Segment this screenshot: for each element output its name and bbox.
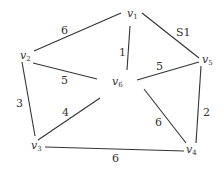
edge-v5-v4 <box>196 66 201 143</box>
vertex-v4: v4 <box>186 143 197 157</box>
weight-v2-v6: 5 <box>61 74 68 87</box>
weight-v2-v3: 3 <box>16 97 23 110</box>
weight-v1-v5: S1 <box>176 26 191 39</box>
edge-v1-v2 <box>34 13 121 51</box>
weight-v1-v6: 1 <box>119 46 126 59</box>
weight-v5-v4: 2 <box>203 106 210 119</box>
edge-v6-v4 <box>144 89 186 143</box>
edge-v2-v3 <box>22 62 35 136</box>
graph-diagram: v1 v2 v3 v4 v5 v6 6 1 S1 5 3 5 4 6 2 6 <box>0 0 224 173</box>
weight-v1-v2: 6 <box>61 24 68 37</box>
weight-v6-v5: 5 <box>156 60 163 73</box>
edge-v6-v5 <box>137 62 199 80</box>
vertex-v1: v1 <box>127 7 138 21</box>
vertex-v6: v6 <box>112 75 123 89</box>
weight-v6-v4: 6 <box>155 116 162 129</box>
vertex-v5: v5 <box>202 53 213 67</box>
vertex-v2: v2 <box>20 49 31 63</box>
weight-v6-v3: 4 <box>62 106 69 119</box>
weight-v3-v4: 6 <box>112 152 119 165</box>
edge-v6-v3 <box>38 98 100 140</box>
edge-v3-v4 <box>45 147 184 151</box>
edge-v1-v6 <box>127 26 130 70</box>
vertex-v3: v3 <box>31 139 42 153</box>
